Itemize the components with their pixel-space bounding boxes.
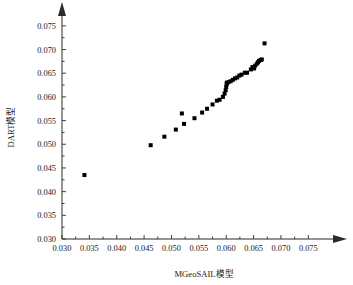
x-tick-label: 0.070 (272, 244, 291, 253)
y-tick-label: 0.030 (37, 235, 56, 244)
data-points (82, 41, 266, 177)
y-tick-label: 0.060 (37, 93, 56, 102)
x-tick-label: 0.055 (189, 244, 208, 253)
x-tick-label: 0.065 (244, 244, 263, 253)
data-point-marker (211, 102, 215, 106)
y-tick-label: 0.050 (37, 140, 56, 149)
y-axis-arrow-icon (58, 2, 66, 16)
data-point-marker (263, 41, 267, 45)
y-tick-label: 0.040 (37, 188, 56, 197)
data-point-marker (182, 122, 186, 126)
data-point-marker (200, 111, 204, 115)
x-axis-arrow-icon (333, 235, 347, 243)
data-point-marker (174, 128, 178, 132)
y-tick-label: 0.070 (37, 46, 56, 55)
data-point-marker (82, 173, 86, 177)
x-tick-label: 0.045 (135, 244, 154, 253)
x-tick-label: 0.030 (53, 244, 72, 253)
y-tick-label: 0.065 (37, 69, 56, 78)
data-point-marker (180, 111, 184, 115)
scatter-plot-figure: 0.0300.0350.0400.0450.0500.0550.0600.065… (0, 0, 353, 285)
y-tick-label: 0.055 (37, 117, 56, 126)
x-axis-label: MGeoSAIL模型 (174, 269, 233, 279)
y-tick-label: 0.035 (37, 211, 56, 220)
y-axis-label: DART模型 (6, 107, 16, 148)
data-point-marker (149, 143, 153, 147)
x-tick-label: 0.060 (217, 244, 236, 253)
data-point-marker (245, 71, 249, 75)
x-tick-label: 0.035 (80, 244, 99, 253)
x-tick-label: 0.050 (162, 244, 181, 253)
x-tick-label: 0.040 (107, 244, 126, 253)
y-tick-label: 0.045 (37, 164, 56, 173)
data-point-marker (260, 57, 264, 61)
plot-canvas: 0.0300.0350.0400.0450.0500.0550.0600.065… (0, 0, 353, 285)
data-point-marker (192, 116, 196, 120)
x-tick-label: 0.075 (299, 244, 318, 253)
axes-group (58, 2, 347, 243)
y-tick-label: 0.075 (37, 22, 56, 31)
data-point-marker (162, 135, 166, 139)
data-point-marker (205, 107, 209, 111)
x-axis-ticks: 0.0300.0350.0400.0450.0500.0550.0600.065… (53, 235, 318, 253)
